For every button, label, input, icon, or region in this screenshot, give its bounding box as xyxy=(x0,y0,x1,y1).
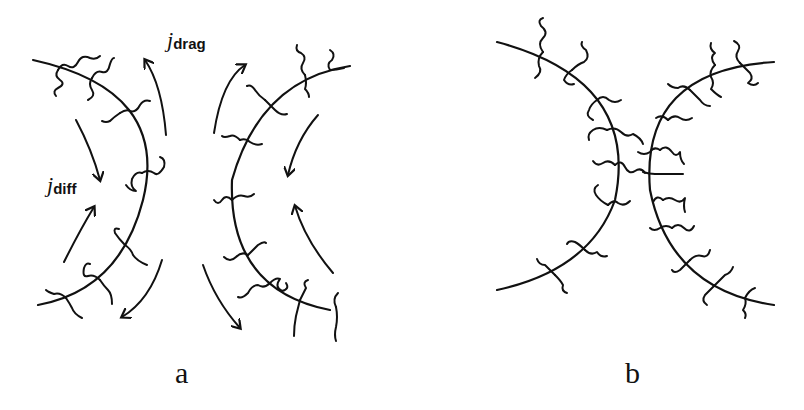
arrow-drag-up-left xyxy=(145,60,166,135)
panel-a-right-surface xyxy=(214,45,350,341)
arrow-drag-down-right xyxy=(203,265,240,328)
drag-flux-label: jdrag xyxy=(167,27,206,53)
arrow-drag-down-left xyxy=(122,260,162,317)
panel-label-b: b xyxy=(625,356,640,390)
diffusive-flux-label: jdiff xyxy=(47,172,76,198)
arrow-diff-down-right xyxy=(288,115,318,175)
arrow-diff-up-right xyxy=(295,206,333,273)
arrow-diff-up-left xyxy=(64,207,94,262)
diagram-canvas xyxy=(0,0,804,410)
panel-b-left-surface xyxy=(497,18,645,293)
panel-b-right-surface xyxy=(638,41,774,318)
arrow-drag-up-right xyxy=(214,65,245,133)
panel-label-a: a xyxy=(175,356,188,390)
arrow-diff-down-left xyxy=(76,120,100,180)
